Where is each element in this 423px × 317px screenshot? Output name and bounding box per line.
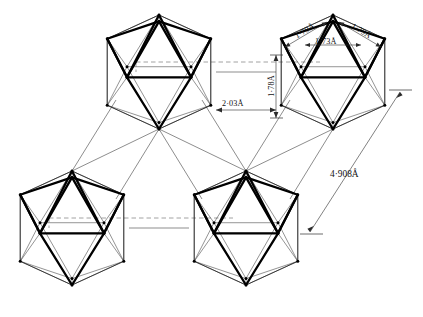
label-cell-diagonal: 4·908Å bbox=[330, 168, 359, 179]
label-bond-top-center: 1·73Å bbox=[315, 37, 336, 46]
label-bond-inter: 2·03Å bbox=[222, 99, 243, 108]
figure-canvas: 2·03Å 1·78Å 1·73Å 1·79Å 1·79Å 4·908 bbox=[0, 0, 423, 317]
label-bond-vertical: 1·78Å bbox=[267, 75, 276, 96]
icosahedra-diagram: 2·03Å 1·78Å 1·73Å 1·79Å 1·79Å 4·908 bbox=[0, 0, 423, 317]
